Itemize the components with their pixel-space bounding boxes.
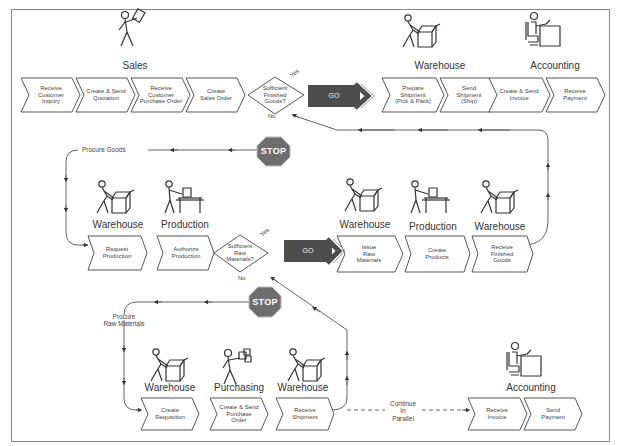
warehouse-worker-icon (288, 349, 325, 381)
stop-label: STOP (249, 287, 281, 317)
step-request-production[interactable]: Request Production (93, 236, 141, 270)
role-label-sales: Sales (110, 60, 160, 72)
step-create-products[interactable]: Create Products (410, 236, 464, 272)
note-procure-raw-materials: Procure Raw Materials (92, 313, 156, 328)
purchasing-person-icon (223, 349, 251, 384)
role-label-production: Production (403, 221, 463, 233)
warehouse-worker-icon (97, 181, 134, 213)
go-label: GO (284, 240, 332, 262)
decision-label-raw-materials: Sufficient Raw Materials? (218, 238, 262, 268)
role-label-warehouse: Warehouse (88, 219, 148, 231)
procure-goods-loop (66, 150, 88, 245)
note-procure-goods: Procure Goods (80, 146, 128, 153)
step-receive-payment[interactable]: Receive Payment (552, 78, 598, 112)
step-create-sales-order[interactable]: Create Sales Order (192, 78, 240, 112)
role-label-warehouse: Warehouse (410, 60, 470, 72)
step-create-requisition[interactable]: Create Requisition (147, 398, 193, 430)
step-receive-customer-purchase-order[interactable]: Receive Customer Purchase Order (136, 78, 186, 112)
sales-person-icon (119, 9, 145, 46)
stop-label: STOP (257, 137, 290, 166)
decision-label-finished-goods: Sufficient Finished Goods? (252, 80, 298, 110)
step-send-payment[interactable]: Send Payment (529, 398, 577, 430)
role-label-production: Production (155, 219, 215, 231)
production-worker-icon (165, 181, 204, 213)
role-label-warehouse: Warehouse (335, 219, 395, 231)
step-prepare-shipment[interactable]: Prepare Shipment (Pick & Pack) (388, 78, 438, 112)
role-label-warehouse: Warehouse (140, 382, 200, 394)
accountant-icon (526, 13, 560, 47)
step-receive-finished-goods[interactable]: Receive Finished Goods (477, 236, 527, 272)
role-label-warehouse: Warehouse (470, 221, 530, 233)
step-create-send-purchase-order[interactable]: Create & Send Purchase Order (215, 398, 263, 430)
production-worker-icon (411, 181, 450, 213)
warehouse-worker-icon (481, 181, 518, 213)
step-send-shipment[interactable]: Send Shipment (Ship) (446, 78, 492, 112)
role-label-warehouse: Warehouse (272, 382, 334, 394)
warehouse-worker-icon (151, 349, 188, 381)
step-receive-invoice[interactable]: Receive Invoice (473, 398, 521, 430)
role-label-accounting: Accounting (520, 60, 590, 72)
role-label-accounting: Accounting (496, 382, 566, 394)
step-authorize-production[interactable]: Authorize Production (162, 236, 210, 270)
go-label: GO (308, 85, 360, 107)
step-create-send-quotation[interactable]: Create & Send Quotation (82, 78, 130, 112)
step-receive-shipment[interactable]: Receive Shipment (281, 398, 329, 430)
step-receive-customer-inquiry[interactable]: Receive Customer Inquiry (28, 78, 74, 112)
no-label: No (238, 275, 246, 282)
note-continue-in-parallel: Continue In Parallel (383, 400, 423, 422)
warehouse-worker-icon (345, 179, 382, 211)
warehouse-worker-icon (403, 15, 440, 47)
role-label-purchasing: Purchasing (208, 382, 270, 394)
no-label: No (268, 113, 276, 120)
accountant-icon (507, 343, 541, 377)
step-issue-raw-materials[interactable]: Issue Raw Materials (343, 236, 395, 272)
step-create-send-invoice[interactable]: Create & Send Invoice (494, 78, 544, 112)
